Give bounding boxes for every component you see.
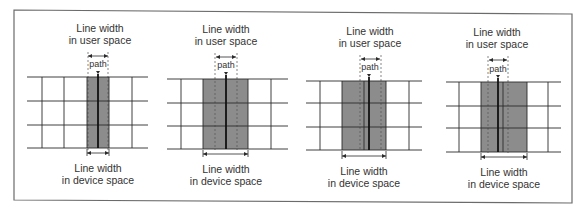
path-pointer-icon — [367, 74, 371, 77]
path-pointer-icon — [96, 71, 100, 74]
line-width-diagram: Line width in user space path Line width — [0, 0, 586, 212]
device-space-label-line1: Line width — [480, 166, 527, 178]
device-space-label-line2: in device space — [328, 177, 401, 189]
path-pointer-icon — [496, 75, 500, 78]
panel-2: Line width in user space path Line width… — [167, 23, 288, 187]
device-space-label-line1: Line width — [202, 163, 249, 175]
user-space-label-line1: Line width — [76, 22, 123, 34]
user-space-label-line1: Line width — [346, 25, 393, 37]
path-label: path — [89, 59, 107, 69]
path-label: path — [217, 60, 235, 70]
device-space-label-line1: Line width — [74, 162, 121, 174]
user-space-label-line2: in user space — [466, 38, 529, 50]
device-space-label-line1: Line width — [340, 165, 387, 177]
user-space-label-line1: Line width — [473, 26, 520, 38]
user-space-label-line2: in user space — [339, 37, 402, 49]
path-label: path — [489, 64, 507, 74]
user-space-label-line1: Line width — [202, 23, 249, 35]
panel-4: Line width in user space path Line width… — [446, 26, 561, 190]
device-space-label-line2: in device space — [62, 174, 135, 186]
pixel-grid — [306, 81, 422, 150]
user-space-label-line2: in user space — [69, 34, 132, 46]
device-space-label-line2: in device space — [468, 178, 541, 190]
device-space-label-line2: in device space — [190, 175, 263, 187]
panel-1: Line width in user space path Line width — [27, 22, 148, 186]
path-label: path — [361, 62, 379, 72]
path-pointer-icon — [224, 72, 228, 75]
user-space-label-line2: in user space — [195, 35, 258, 47]
panel-3: Line width in user space path Line width… — [306, 25, 422, 189]
